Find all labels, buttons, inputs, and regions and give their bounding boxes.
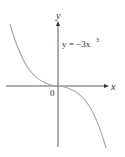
y-axis-arrow-icon <box>56 21 60 26</box>
equation-label: y = −3x <box>62 39 91 49</box>
origin-label: 0 <box>50 88 55 98</box>
y-axis-label: y <box>55 10 61 21</box>
x-axis-arrow-icon <box>104 84 109 88</box>
x-axis-label: x <box>110 81 116 92</box>
cubic-graph: y x 0 y = −3x 3 <box>0 0 125 157</box>
equation-exponent: 3 <box>96 37 99 43</box>
